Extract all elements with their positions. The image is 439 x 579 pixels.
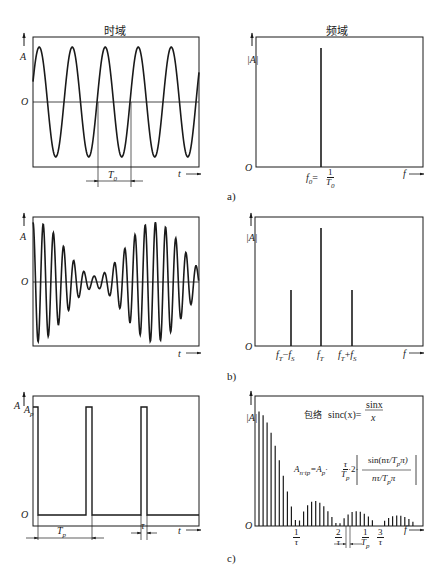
axis-label-time: t bbox=[178, 169, 181, 179]
f0-label: f0= bbox=[306, 173, 318, 186]
axis-label-freq: f bbox=[403, 169, 406, 179]
axis-label-amplitude: A bbox=[20, 52, 26, 62]
tick-1-over-tau: 1τ bbox=[293, 528, 300, 547]
frame-a-freq bbox=[256, 37, 423, 167]
title-time-domain: 时域 bbox=[104, 22, 126, 38]
frame-b-freq bbox=[255, 217, 423, 346]
label-lower-sideband: fT−fS bbox=[276, 350, 295, 363]
frame-c-time bbox=[33, 396, 199, 526]
tick-3-over-tau: 3τ bbox=[377, 528, 384, 547]
caption-b: b) bbox=[227, 370, 236, 382]
caption-a: a) bbox=[227, 190, 236, 202]
pulse-width-label: τ bbox=[141, 521, 145, 531]
tick-2-over-tau: 2τ bbox=[335, 528, 342, 547]
pulse-period-label: Tp bbox=[57, 526, 66, 539]
frame-b-time bbox=[33, 217, 199, 346]
label-upper-sideband: fT+fS bbox=[338, 350, 357, 363]
figure-canvas bbox=[0, 0, 439, 579]
pulse-amplitude-label: Ap bbox=[24, 405, 34, 418]
axis-label-abs-amplitude: |A| bbox=[247, 55, 259, 65]
pulse-train bbox=[33, 407, 199, 515]
envelope-label: 包络 bbox=[304, 411, 322, 420]
envelope-formula: sinc(x)= bbox=[328, 410, 361, 420]
axis-label-origin: O bbox=[21, 97, 28, 107]
amplitude-formula: An·tp=Ap· bbox=[294, 465, 328, 477]
tick-1-over-Tp: 1Tp bbox=[361, 528, 370, 550]
title-freq-domain: 频域 bbox=[326, 22, 348, 38]
sinc-spectral-lines bbox=[259, 412, 413, 527]
period-label: T0 bbox=[108, 170, 117, 183]
caption-c: c) bbox=[227, 552, 236, 564]
label-carrier: fT bbox=[317, 350, 324, 363]
f0-fraction: 1T0 bbox=[326, 168, 335, 190]
